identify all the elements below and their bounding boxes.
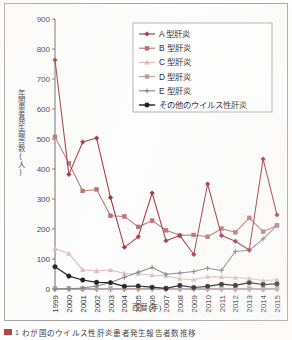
- series-2: [53, 135, 279, 239]
- data-point: [177, 271, 182, 276]
- series-3: [53, 246, 280, 282]
- legend-marker-circle-icon: [145, 103, 150, 108]
- y-tick-label: 500: [37, 135, 51, 144]
- data-point: [219, 282, 224, 287]
- y-tick-label: 200: [37, 225, 51, 234]
- data-point: [261, 230, 265, 234]
- data-point: [247, 286, 251, 290]
- data-point: [164, 228, 168, 232]
- x-axis-title: 西暦(年): [5, 301, 289, 312]
- data-point: [150, 219, 154, 223]
- data-point: [191, 269, 196, 274]
- data-point: [109, 286, 113, 290]
- data-point: [164, 238, 169, 243]
- legend-label: D 型肝炎: [159, 72, 191, 82]
- y-tick-label: 800: [37, 45, 51, 54]
- data-point: [192, 233, 196, 237]
- data-point: [275, 213, 280, 218]
- data-point: [205, 266, 210, 271]
- data-point: [178, 283, 183, 288]
- data-point: [150, 191, 155, 196]
- data-point: [80, 140, 85, 145]
- legend-marker-square-icon: [145, 75, 149, 79]
- data-point: [219, 233, 224, 238]
- data-point: [94, 136, 99, 141]
- data-point: [261, 157, 266, 162]
- data-point: [275, 286, 279, 290]
- caption-marker-icon: [4, 329, 12, 335]
- data-point: [67, 274, 72, 279]
- data-point: [122, 275, 127, 280]
- y-tick-label: 300: [37, 195, 51, 204]
- data-point: [122, 214, 126, 218]
- series-line: [55, 137, 277, 237]
- caption-text: わが国のウイルス性肝炎患者発生報告者数推移: [22, 327, 196, 338]
- figure-root: 0100200300400500600700800900199920002001…: [0, 0, 292, 340]
- plot-area: 0100200300400500600700800900199920002001…: [5, 4, 289, 322]
- data-point: [108, 195, 113, 200]
- data-point: [261, 282, 266, 287]
- line-chart: 0100200300400500600700800900199920002001…: [5, 4, 289, 322]
- data-point: [53, 135, 57, 139]
- data-point: [164, 286, 169, 291]
- data-point: [53, 246, 58, 250]
- data-point: [206, 235, 210, 239]
- y-tick-group: 0100200300400500600700800900: [37, 15, 55, 294]
- data-point: [136, 225, 140, 229]
- figure-caption: 1 わが国のウイルス性肝炎患者発生報告者数推移: [4, 326, 288, 338]
- data-point: [94, 280, 99, 285]
- data-point: [53, 265, 58, 270]
- data-point: [150, 265, 155, 270]
- legend-box: [133, 23, 272, 112]
- legend-label: E 型肝炎: [159, 86, 191, 96]
- y-tick-label: 600: [37, 105, 51, 114]
- data-point: [205, 284, 210, 289]
- series-line: [55, 225, 277, 289]
- data-point: [95, 187, 99, 191]
- y-tick-label: 100: [37, 255, 51, 264]
- data-point: [109, 214, 113, 218]
- caption-number: 1: [15, 329, 19, 336]
- y-tick-label: 900: [37, 15, 51, 24]
- data-point: [122, 284, 127, 289]
- y-tick-label: 0: [46, 285, 51, 294]
- legend-label: A 型肝炎: [159, 29, 190, 39]
- data-point: [81, 189, 85, 193]
- data-point: [53, 58, 58, 63]
- data-point: [275, 282, 280, 287]
- legend-label: C 型肝炎: [159, 57, 191, 67]
- data-point: [233, 283, 238, 288]
- data-point: [136, 284, 141, 289]
- y-axis-title: 年間患者発生報告数(人): [11, 88, 24, 176]
- data-point: [261, 287, 265, 291]
- data-point: [205, 182, 210, 187]
- legend: A 型肝炎B 型肝炎C 型肝炎D 型肝炎E 型肝炎その他のウイルス性肝炎: [133, 23, 272, 112]
- legend-marker-square-icon: [145, 46, 149, 50]
- legend-label: B 型肝炎: [159, 43, 191, 53]
- data-point: [150, 285, 155, 290]
- figure-frame: 0100200300400500600700800900199920002001…: [4, 3, 288, 321]
- data-point: [191, 285, 196, 290]
- data-point: [67, 172, 72, 177]
- data-point: [247, 216, 251, 220]
- data-point: [80, 278, 85, 283]
- data-point: [220, 286, 224, 290]
- data-point: [233, 230, 237, 234]
- y-tick-label: 700: [37, 75, 51, 84]
- y-tick-label: 400: [37, 165, 51, 174]
- legend-label: その他のウイルス性肝炎: [159, 100, 247, 110]
- data-point: [275, 223, 279, 227]
- data-point: [247, 280, 252, 285]
- data-point: [108, 280, 113, 285]
